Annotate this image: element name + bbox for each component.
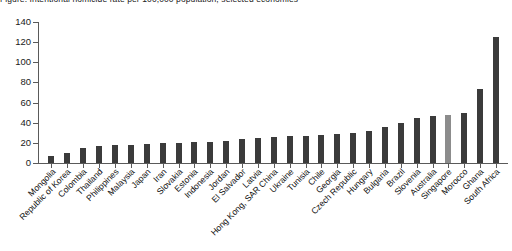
y-axis-tick-label: 80: [3, 77, 31, 87]
y-axis-tick: [33, 163, 38, 164]
y-axis-tick: [33, 82, 38, 83]
bar: [207, 142, 213, 163]
x-axis-labels: MongoliaRepublic of KoreaColombiaThailan…: [38, 168, 512, 251]
bar: [64, 153, 70, 163]
bar: [445, 115, 451, 163]
y-axis-tick: [33, 103, 38, 104]
bar: [48, 156, 54, 163]
bar: [239, 139, 245, 163]
y-axis-tick-label: 60: [3, 98, 31, 108]
bar: [96, 146, 102, 163]
bar: [477, 89, 483, 163]
bar: [160, 143, 166, 163]
bar: [334, 134, 340, 163]
plot-area: [38, 22, 508, 163]
bar: [318, 135, 324, 163]
bar: [287, 136, 293, 163]
bar: [398, 123, 404, 163]
bar: [223, 141, 229, 163]
bar: [414, 118, 420, 163]
y-axis-tick-label: 100: [3, 57, 31, 67]
bar: [493, 37, 499, 163]
y-axis-tick-label: 140: [3, 17, 31, 27]
bar: [176, 143, 182, 163]
y-axis-tick: [33, 143, 38, 144]
bar: [112, 145, 118, 163]
y-axis-tick: [33, 42, 38, 43]
bar: [303, 136, 309, 163]
y-axis-tick: [33, 62, 38, 63]
bar: [366, 131, 372, 163]
bar: [382, 127, 388, 163]
bar: [144, 144, 150, 163]
bar: [80, 148, 86, 163]
bar: [350, 133, 356, 163]
y-axis-tick-label: 120: [3, 37, 31, 47]
y-axis-tick-label: 20: [3, 138, 31, 148]
chart-title: Figure: Intentional homicide rate per 10…: [0, 0, 512, 4]
y-axis-tick: [33, 22, 38, 23]
bar-chart: Figure: Intentional homicide rate per 10…: [0, 0, 512, 251]
y-axis-tick-label: 0: [3, 158, 31, 168]
bar: [461, 113, 467, 163]
bar: [430, 116, 436, 163]
bar: [128, 145, 134, 163]
bar: [191, 142, 197, 163]
y-axis-tick-label: 40: [3, 118, 31, 128]
bar: [271, 137, 277, 163]
bar: [255, 138, 261, 163]
y-axis-tick: [33, 123, 38, 124]
